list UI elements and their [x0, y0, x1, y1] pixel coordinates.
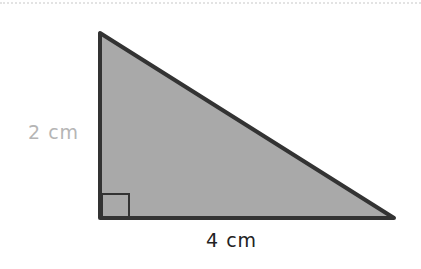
base-label: 4 cm	[206, 229, 257, 251]
height-label: 2 cm	[28, 121, 79, 143]
right-triangle	[100, 33, 394, 218]
